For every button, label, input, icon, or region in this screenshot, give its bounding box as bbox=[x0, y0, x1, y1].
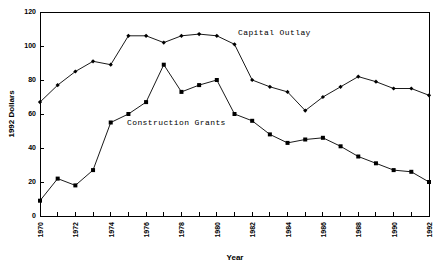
y-axis-ticks bbox=[40, 12, 44, 216]
series-annotations: Capital OutlayConstruction Grants bbox=[127, 28, 311, 127]
x-tick-label: 1986 bbox=[320, 222, 327, 238]
data-point bbox=[73, 183, 77, 187]
data-point bbox=[427, 180, 431, 184]
x-tick-label: 1974 bbox=[108, 222, 115, 238]
data-point bbox=[197, 83, 201, 87]
data-point bbox=[56, 177, 60, 181]
series-1 bbox=[38, 32, 431, 113]
x-tick-label: 1982 bbox=[249, 222, 256, 238]
series-2 bbox=[38, 63, 431, 203]
data-point bbox=[356, 75, 360, 79]
data-point bbox=[250, 119, 254, 123]
series-annotation-1: Capital Outlay bbox=[238, 28, 311, 37]
data-point bbox=[179, 34, 183, 38]
data-point bbox=[268, 85, 272, 89]
data-point bbox=[38, 199, 42, 203]
x-tick-label: 1988 bbox=[355, 222, 362, 238]
data-point bbox=[303, 138, 307, 142]
data-point bbox=[232, 42, 236, 46]
data-point bbox=[215, 34, 219, 38]
y-tick-label: 120 bbox=[24, 8, 36, 15]
y-axis-tick-labels: 020406080100120 bbox=[24, 8, 36, 219]
x-tick-label: 1984 bbox=[285, 222, 292, 238]
series-line-2 bbox=[40, 65, 429, 201]
chart-figure: 020406080100120 197019721974197619781980… bbox=[0, 0, 443, 264]
data-point bbox=[392, 86, 396, 90]
data-point bbox=[144, 100, 148, 104]
data-point bbox=[321, 136, 325, 140]
data-point bbox=[356, 155, 360, 159]
x-tick-label: 1976 bbox=[143, 222, 150, 238]
data-point bbox=[409, 170, 413, 174]
data-point bbox=[338, 85, 342, 89]
data-point bbox=[179, 90, 183, 94]
y-tick-label: 60 bbox=[28, 110, 36, 117]
data-point bbox=[162, 63, 166, 67]
x-axis-title: Year bbox=[227, 253, 244, 262]
y-tick-label: 20 bbox=[28, 178, 36, 185]
x-tick-label: 1990 bbox=[391, 222, 398, 238]
data-point bbox=[409, 86, 413, 90]
data-point bbox=[126, 112, 130, 116]
series-annotation-2: Construction Grants bbox=[127, 118, 226, 127]
y-tick-label: 0 bbox=[32, 212, 36, 219]
data-point bbox=[215, 78, 219, 82]
data-point bbox=[109, 121, 113, 125]
x-axis-tick-labels: 1970197219741976197819801982198419861988… bbox=[37, 222, 433, 238]
data-point bbox=[374, 161, 378, 165]
x-tick-label: 1978 bbox=[178, 222, 185, 238]
data-point bbox=[197, 32, 201, 36]
line-chart: 020406080100120 197019721974197619781980… bbox=[0, 0, 443, 264]
y-tick-label: 100 bbox=[24, 42, 36, 49]
data-point bbox=[392, 168, 396, 172]
x-tick-label: 1992 bbox=[426, 222, 433, 238]
data-point bbox=[268, 132, 272, 136]
x-tick-label: 1970 bbox=[37, 222, 44, 238]
data-point bbox=[233, 112, 237, 116]
series-layer bbox=[38, 32, 431, 203]
y-axis-title: 1992 Dollars bbox=[7, 90, 16, 138]
data-point bbox=[250, 78, 254, 82]
data-point bbox=[91, 168, 95, 172]
data-point bbox=[427, 93, 431, 97]
data-point bbox=[126, 34, 130, 38]
x-tick-label: 1972 bbox=[72, 222, 79, 238]
data-point bbox=[162, 41, 166, 45]
x-tick-label: 1980 bbox=[214, 222, 221, 238]
y-tick-label: 80 bbox=[28, 76, 36, 83]
data-point bbox=[144, 34, 148, 38]
data-point bbox=[374, 80, 378, 84]
data-point bbox=[339, 144, 343, 148]
x-axis-ticks bbox=[40, 212, 429, 216]
data-point bbox=[109, 63, 113, 67]
y-tick-label: 40 bbox=[28, 144, 36, 151]
data-point bbox=[286, 141, 290, 145]
data-point bbox=[91, 59, 95, 63]
